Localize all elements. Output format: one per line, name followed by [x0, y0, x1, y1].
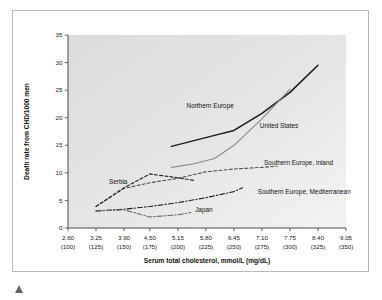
series-label-united-states: United States — [260, 122, 298, 129]
x-tick-label-mgdl: (200) — [171, 243, 185, 250]
y-tick-label: 15 — [56, 141, 63, 148]
x-axis-title: Serum total cholesterol, mmol/L (mg/dL) — [144, 257, 270, 265]
x-tick-label-mgdl: (125) — [89, 243, 103, 250]
y-tick-label: 30 — [56, 59, 63, 66]
x-tick-label-mgdl: (225) — [199, 243, 213, 250]
series-label-southern-europe-inland: Southern Europe, inland — [264, 159, 333, 167]
y-tick-label: 10 — [56, 169, 63, 176]
x-tick-label-mmol: 3.25 — [90, 234, 103, 241]
x-tick-label-mmol: 2.60 — [62, 234, 75, 241]
y-tick-label: 25 — [56, 86, 63, 93]
plot-background — [68, 35, 346, 228]
figure-frame: Northern EuropeUnited StatesSouthern Eur… — [12, 10, 369, 272]
x-tick-label-mmol: 4.50 — [144, 234, 157, 241]
x-tick-label-mmol: 9.05 — [340, 234, 353, 241]
x-tick-label-mgdl: (350) — [339, 243, 353, 250]
x-tick-label-mmol: 7.75 — [284, 234, 297, 241]
series-label-northern-europe: Northern Europe — [187, 102, 235, 110]
x-tick-label-mgdl: (150) — [117, 243, 131, 250]
series-label-japan: Japan — [195, 206, 213, 214]
y-tick-label: 35 — [56, 31, 63, 38]
y-tick-label: 5 — [59, 197, 63, 204]
y-tick-label: 0 — [59, 224, 63, 231]
x-tick-label-mgdl: (250) — [227, 243, 241, 250]
triangle-marker — [15, 285, 23, 293]
x-tick-label-mmol: 8.40 — [312, 234, 325, 241]
x-tick-label-mmol: 7.10 — [256, 234, 269, 241]
x-tick-label-mmol: 3.90 — [118, 234, 131, 241]
x-tick-label-mgdl: (300) — [283, 243, 297, 250]
x-tick-label-mgdl: (325) — [311, 243, 325, 250]
figure-root: Northern EuropeUnited StatesSouthern Eur… — [0, 0, 382, 300]
x-tick-label-mgdl: (100) — [61, 243, 75, 250]
y-tick-label: 20 — [56, 114, 63, 121]
x-tick-label-mgdl: (275) — [255, 243, 269, 250]
x-tick-label-mmol: 6.45 — [228, 234, 241, 241]
y-axis-title: Death rate from CHD/1000 men — [23, 83, 30, 180]
x-tick-label-mmol: 5.80 — [200, 234, 213, 241]
x-tick-label-mmol: 5.15 — [172, 234, 185, 241]
chart-canvas: Northern EuropeUnited StatesSouthern Eur… — [13, 11, 370, 273]
series-label-serbia: Serbia — [109, 178, 128, 185]
series-label-southern-europe-mediterranean: Southern Europe, Mediterranean — [258, 188, 352, 196]
x-tick-label-mgdl: (175) — [143, 243, 157, 250]
